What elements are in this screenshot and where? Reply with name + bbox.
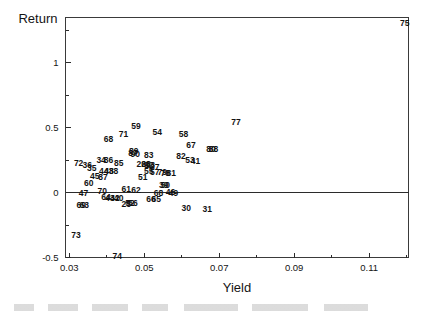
data-point-label: 31: [202, 204, 212, 214]
data-point-label: 81: [166, 168, 176, 178]
data-point-label: 71: [119, 129, 129, 139]
plot-canvas: 0.030.050.070.090.11 -0.500.51 757759545…: [0, 0, 426, 311]
x-tick-label: 0.05: [135, 262, 154, 273]
x-tick-label: 0.07: [210, 262, 229, 273]
data-point-label: 87: [98, 172, 108, 182]
data-point-label: 62: [131, 185, 141, 195]
y-tick-label: 0: [53, 187, 58, 198]
data-point-label: 90: [130, 149, 140, 159]
x-axis-title: Yield: [223, 280, 251, 295]
y-tick-label: 1: [53, 57, 58, 68]
data-point-label: 52: [125, 198, 135, 208]
data-point-label: 73: [71, 230, 81, 240]
x-tick-label: 0.11: [360, 262, 378, 273]
page-caption-strip: [8, 304, 418, 311]
data-point-label: 47: [79, 188, 89, 198]
data-point-label: 51: [138, 172, 148, 182]
scatter-plot-figure: 0.030.050.070.090.11 -0.500.51 757759545…: [0, 0, 426, 311]
data-point-label: 49: [169, 188, 179, 198]
data-point-label: 65: [151, 194, 161, 204]
y-axis-tick-labels: -0.500.51: [42, 57, 58, 263]
y-axis-title: Return: [18, 11, 57, 26]
data-point-label: 58: [179, 129, 189, 139]
data-point-label: 75: [400, 18, 410, 28]
data-point-label: 38: [109, 166, 119, 176]
y-tick-label: -0.5: [42, 252, 58, 263]
axis-ticks: [66, 30, 407, 257]
x-tick-label: 0.03: [60, 262, 79, 273]
data-point-label: 54: [153, 127, 163, 137]
data-point-label: 86: [104, 155, 114, 165]
data-point-label: 74: [112, 251, 122, 261]
data-point-label: 68: [104, 134, 114, 144]
x-tick-label: 0.09: [285, 262, 304, 273]
x-axis-tick-labels: 0.030.050.070.090.11: [60, 262, 378, 273]
data-point-label: 63: [80, 200, 90, 210]
data-point-label: 30: [181, 203, 191, 213]
data-point-labels: 7577595458716867808889879083823486534185…: [71, 18, 409, 262]
data-point-label: 77: [231, 117, 241, 127]
plot-frame: [66, 18, 409, 258]
data-point-label: 41: [191, 156, 201, 166]
y-tick-label: 0.5: [45, 122, 58, 133]
data-point-label: 59: [131, 121, 141, 131]
data-point-label: 88: [209, 144, 219, 154]
data-point-label: 67: [186, 140, 196, 150]
